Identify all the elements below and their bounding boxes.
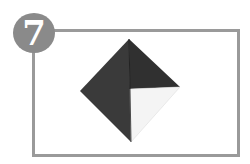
diamond-left-half [80, 39, 131, 142]
step-number-badge: 7 [13, 13, 55, 53]
diamond-white-flap [130, 87, 180, 142]
diamond-top-right [129, 39, 180, 89]
